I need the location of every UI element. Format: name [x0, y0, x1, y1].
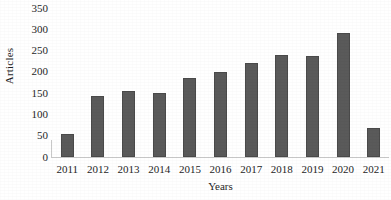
x-axis-tick-label: 2020	[328, 162, 359, 178]
y-axis-tick-label: 150	[18, 88, 48, 99]
bar-slot	[236, 8, 267, 157]
x-axis-title: Years	[52, 180, 389, 192]
x-axis-tick-label: 2017	[236, 162, 267, 178]
y-axis-tick-label: 300	[18, 24, 48, 35]
y-axis-tick-labels: 050100150200250300350	[18, 0, 48, 170]
x-axis-line	[52, 157, 389, 158]
bar-slot	[205, 8, 236, 157]
x-axis-tick-label: 2015	[175, 162, 206, 178]
bar-chart: Articles 050100150200250300350 201120122…	[0, 0, 391, 200]
x-axis-tick-label: 2011	[52, 162, 83, 178]
x-axis-tick-label: 2012	[83, 162, 114, 178]
plot-area	[52, 8, 389, 157]
bar-series	[52, 8, 389, 157]
y-axis-tick-label: 200	[18, 66, 48, 77]
y-axis-tick-label: 350	[18, 3, 48, 14]
bar-slot	[297, 8, 328, 157]
x-axis-tick-labels: 2011201220132014201520162017201820192020…	[52, 162, 389, 178]
y-axis-tick-label: 0	[18, 152, 48, 163]
bar	[61, 134, 74, 157]
x-axis-tick-label: 2021	[358, 162, 389, 178]
bar	[153, 93, 166, 157]
bar	[367, 128, 380, 157]
bar-slot	[358, 8, 389, 157]
y-axis-title: Articles	[3, 38, 15, 94]
bar	[275, 55, 288, 157]
y-axis-tick-label: 100	[18, 109, 48, 120]
bar	[245, 63, 258, 157]
bar-slot	[328, 8, 359, 157]
x-axis-tick-label: 2019	[297, 162, 328, 178]
bar-slot	[144, 8, 175, 157]
bar	[122, 91, 135, 157]
x-axis-tick-label: 2013	[113, 162, 144, 178]
bar	[306, 56, 319, 157]
y-axis-tick-label: 250	[18, 45, 48, 56]
x-axis-tick-label: 2018	[266, 162, 297, 178]
x-axis-tick-label: 2014	[144, 162, 175, 178]
bar-slot	[83, 8, 114, 157]
bar-slot	[52, 8, 83, 157]
bar	[183, 78, 196, 157]
bar-slot	[113, 8, 144, 157]
bar-slot	[175, 8, 206, 157]
bar	[337, 33, 350, 157]
bar	[91, 96, 104, 157]
bar-slot	[266, 8, 297, 157]
bar	[214, 72, 227, 157]
x-axis-tick-label: 2016	[205, 162, 236, 178]
y-axis-tick-label: 50	[18, 130, 48, 141]
